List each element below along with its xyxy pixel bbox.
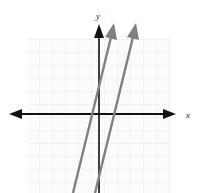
y-axis-label: y	[95, 11, 100, 21]
coordinate-plane-svg: y x	[0, 0, 198, 193]
line-1-arrowhead	[105, 23, 117, 40]
y-axis-up-arrowhead	[94, 24, 104, 38]
line-2-arrowhead	[127, 23, 139, 40]
x-axis-left-arrowhead	[9, 109, 22, 119]
figure-container: y x	[0, 0, 198, 193]
x-axis-label: x	[185, 110, 190, 120]
